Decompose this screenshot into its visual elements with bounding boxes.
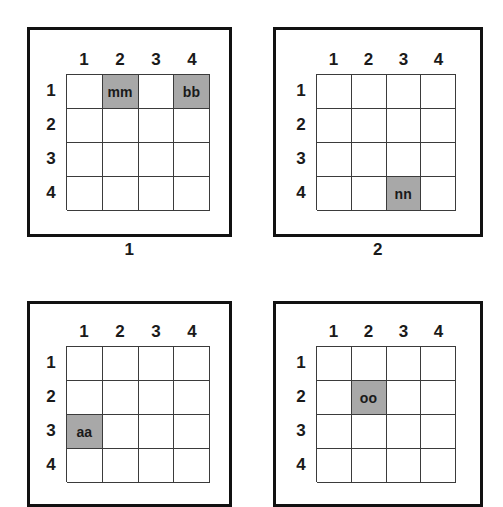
grid-cell-r4-c4[interactable] <box>421 449 456 483</box>
row-header: 4 <box>290 448 312 482</box>
grid-cell-r3-c3[interactable] <box>387 415 422 449</box>
grid-cell-r4-c2[interactable] <box>352 449 387 483</box>
panel-4-row-headers: 1234 <box>290 346 312 482</box>
grid-panels-figure: 12341234mmbb112341234nn212341234aa123412… <box>0 0 503 507</box>
grid-cell-r2-c3[interactable] <box>387 381 422 415</box>
grid-cell-r1-c3[interactable] <box>387 347 422 381</box>
panel-4-grid: oo <box>316 346 456 482</box>
grid-cell-r4-c3[interactable] <box>387 449 422 483</box>
grid-cell-r2-c1[interactable] <box>317 381 352 415</box>
grid-cell-r2-c2[interactable]: oo <box>352 381 387 415</box>
grid-cell-r4-c1[interactable] <box>317 449 352 483</box>
row-header: 2 <box>290 380 312 414</box>
panel-4: 12341234oo <box>0 0 503 507</box>
grid-cell-r2-c4[interactable] <box>421 381 456 415</box>
grid-cell-r3-c4[interactable] <box>421 415 456 449</box>
row-header: 1 <box>290 346 312 380</box>
grid-cell-r1-c2[interactable] <box>352 347 387 381</box>
panel-4-frame: 12341234oo <box>273 301 483 507</box>
grid-cell-r3-c1[interactable] <box>317 415 352 449</box>
grid-cell-r3-c2[interactable] <box>352 415 387 449</box>
column-header: 3 <box>386 322 421 342</box>
column-header: 2 <box>351 322 386 342</box>
grid-row <box>317 415 456 449</box>
column-header: 1 <box>316 322 351 342</box>
grid-row <box>317 347 456 381</box>
grid-cell-r1-c1[interactable] <box>317 347 352 381</box>
panel-4-column-headers: 1234 <box>316 322 456 342</box>
row-header: 3 <box>290 414 312 448</box>
grid-row <box>317 449 456 483</box>
grid-cell-r1-c4[interactable] <box>421 347 456 381</box>
grid-row: oo <box>317 381 456 415</box>
column-header: 4 <box>421 322 456 342</box>
